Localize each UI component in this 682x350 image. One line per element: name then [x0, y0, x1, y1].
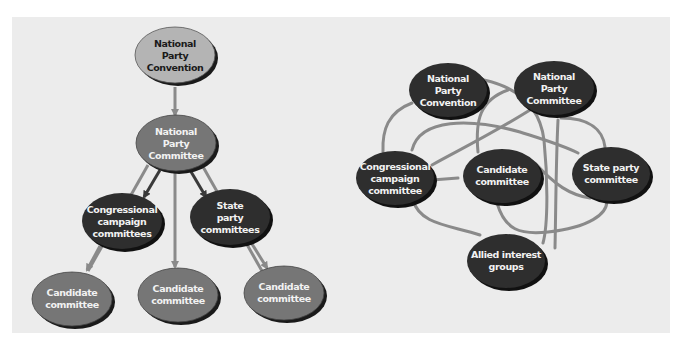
svg-text:committee: committee — [151, 295, 205, 306]
network-node-national-party-committee: National Party Committee — [514, 61, 597, 118]
svg-text:Party: Party — [162, 50, 190, 61]
node-national-party-committee: National Party Committee — [136, 115, 219, 174]
svg-text:campaign: campaign — [371, 173, 420, 184]
svg-text:Convention: Convention — [147, 62, 204, 73]
svg-text:National: National — [533, 71, 575, 82]
svg-text:committees: committees — [201, 224, 261, 235]
edge-congressional-to-candidate-left — [87, 246, 100, 270]
svg-text:Committee: Committee — [149, 150, 204, 161]
svg-text:Party: Party — [163, 138, 191, 149]
svg-text:Convention: Convention — [420, 97, 477, 108]
network-diagram: National Party Convention National Party… — [356, 61, 653, 291]
svg-text:groups: groups — [489, 261, 525, 272]
svg-text:party: party — [217, 212, 245, 223]
svg-text:Candidate: Candidate — [153, 283, 204, 294]
svg-text:Party: Party — [541, 83, 569, 94]
node-national-party-convention: National Party Convention — [135, 27, 218, 86]
svg-text:Party: Party — [435, 85, 463, 96]
svg-text:National: National — [155, 126, 197, 137]
hierarchy-diagram: National Party Convention National Party… — [32, 27, 327, 329]
node-candidate-committee-left: Candidate committee — [32, 272, 115, 329]
svg-text:Congressional: Congressional — [360, 161, 431, 172]
node-state-party-committees: State party committees — [190, 189, 273, 248]
network-node-allied-interest-groups: Allied interest groups — [467, 234, 548, 291]
svg-text:Allied interest: Allied interest — [471, 249, 542, 260]
svg-text:State party: State party — [583, 162, 641, 173]
network-node-national-party-convention: National Party Convention — [409, 63, 490, 120]
svg-text:National: National — [427, 73, 469, 84]
node-candidate-committee-right: Candidate committee — [244, 266, 327, 323]
svg-text:Candidate: Candidate — [259, 281, 310, 292]
svg-text:committee: committee — [257, 293, 311, 304]
svg-text:committees: committees — [93, 228, 153, 239]
svg-text:Committee: Committee — [527, 95, 582, 106]
node-candidate-committee-center: Candidate committee — [138, 268, 221, 325]
party-organization-diagrams: National Party Convention National Party… — [0, 0, 682, 350]
edge-congressional-state — [412, 123, 578, 153]
edge-committee-to-state — [190, 170, 206, 197]
svg-text:State: State — [217, 200, 244, 211]
network-node-candidate-committee: Candidate committee — [463, 149, 544, 206]
svg-text:committee: committee — [368, 185, 422, 196]
edge-committee-to-congressional — [144, 170, 160, 197]
svg-text:committee: committee — [45, 299, 99, 310]
edge-committee-state — [561, 118, 605, 147]
svg-text:campaign: campaign — [98, 216, 147, 227]
edge-congressional-allied — [413, 200, 480, 235]
svg-text:Candidate: Candidate — [477, 164, 528, 175]
network-node-congressional-campaign-committee: Congressional campaign committee — [356, 151, 437, 208]
svg-text:Congressional: Congressional — [87, 204, 158, 215]
svg-text:committee: committee — [475, 176, 529, 187]
edge-convention-congressional — [383, 103, 412, 152]
node-congressional-campaign-committees: Congressional campaign committees — [82, 193, 165, 252]
svg-text:Candidate: Candidate — [47, 287, 98, 298]
svg-text:committee: committee — [584, 174, 638, 185]
svg-text:National: National — [154, 38, 196, 49]
